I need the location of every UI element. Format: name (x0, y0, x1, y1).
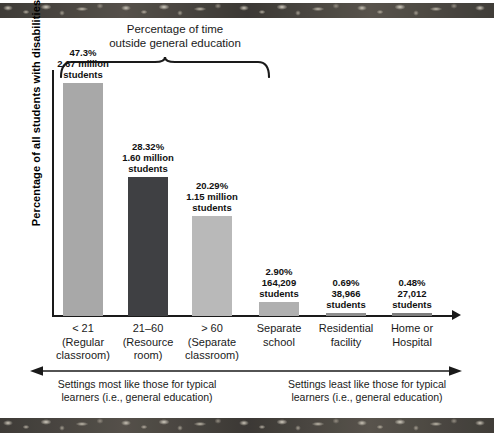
bar-column: 2.90%164,209students (259, 266, 299, 316)
bar-value-line: students (186, 202, 238, 213)
bar-value-line: students (392, 299, 432, 310)
bar-column: 47.3%2.67 millionstudents (63, 47, 103, 316)
bar-value-label: 20.29%1.15 millionstudents (186, 180, 238, 213)
bar-value-line: 2.90% (259, 266, 299, 277)
x-axis-category-label: Home orHospital (367, 322, 457, 349)
bar-value-line: students (122, 163, 174, 174)
footer-note-right: Settings least like those for typical le… (256, 378, 478, 404)
bar[interactable] (192, 216, 232, 316)
continuum-double-arrow-icon (30, 365, 462, 377)
bar-value-line: 28.32% (122, 141, 174, 152)
bar-value-line: 0.69% (326, 277, 366, 288)
bar-column: 0.48%27,012students (392, 277, 432, 316)
category-label-line: Home or (367, 322, 457, 336)
bar-value-line: 1.60 million (122, 152, 174, 163)
bar-value-line: 164,209 (259, 277, 299, 288)
chart-title-line1: Percentage of time (75, 22, 275, 36)
footer-right-line1: Settings least like those for typical (256, 378, 478, 391)
footer-left-line1: Settings most like those for typical (32, 378, 242, 391)
bar[interactable] (63, 83, 103, 316)
bar-value-label: 0.69%38,966students (326, 277, 366, 310)
bar-value-line: 47.3% (57, 47, 109, 58)
bar-value-line: 20.29% (186, 180, 238, 191)
bar-column: 20.29%1.15 millionstudents (192, 180, 232, 316)
bar[interactable] (259, 302, 299, 316)
bar-value-line: 2.67 million (57, 58, 109, 69)
chart-plot-area: Percentage of time outside general educa… (0, 0, 494, 436)
bar-value-line: students (259, 288, 299, 299)
category-label-line: Hospital (367, 336, 457, 350)
bar[interactable] (326, 313, 366, 316)
bar-value-label: 28.32%1.60 millionstudents (122, 141, 174, 174)
bar-value-line: 38,966 (326, 288, 366, 299)
figure-container: Percentage of time outside general educa… (0, 0, 494, 436)
bar-value-label: 2.90%164,209students (259, 266, 299, 299)
chart-title: Percentage of time outside general educa… (75, 22, 275, 50)
footer-note-left: Settings most like those for typical lea… (32, 378, 242, 404)
bar-value-label: 47.3%2.67 millionstudents (57, 47, 109, 80)
y-axis-label: Percentage of all students with disabili… (30, 0, 42, 233)
bar-value-line: 1.15 million (186, 191, 238, 202)
category-label-line: classroom) (167, 349, 257, 363)
bar-value-line: students (57, 69, 109, 80)
bar-value-line: 0.48% (392, 277, 432, 288)
bar-value-line: students (326, 299, 366, 310)
bar[interactable] (392, 313, 432, 316)
footer-left-line2: learners (i.e., general education) (32, 391, 242, 404)
footer-right-line2: learners (i.e., general education) (256, 391, 478, 404)
bar-value-label: 0.48%27,012students (392, 277, 432, 310)
bar[interactable] (128, 177, 168, 316)
bar-column: 28.32%1.60 millionstudents (128, 141, 168, 316)
bar-column: 0.69%38,966students (326, 277, 366, 316)
bar-series: 47.3%2.67 millionstudents28.32%1.60 mill… (52, 70, 456, 316)
bar-value-line: 27,012 (392, 288, 432, 299)
